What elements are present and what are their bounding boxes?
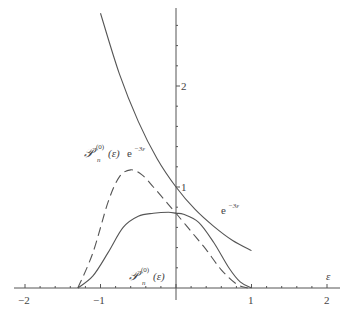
y-ticks xyxy=(176,25,180,267)
svg-text:−3ε: −3ε xyxy=(228,202,239,210)
svg-text:n: n xyxy=(97,156,101,164)
svg-text:(ε): (ε) xyxy=(108,147,120,160)
exp-curve-label: e −3ε xyxy=(221,202,239,216)
y-tick-label-2: 2 xyxy=(181,80,187,92)
x-tick-label-minus1: −1 xyxy=(93,294,105,306)
x-tick-label-minus2: −2 xyxy=(18,294,30,306)
x-tick-label-2: 2 xyxy=(324,294,330,306)
x-tick-label-1: 1 xyxy=(248,294,254,306)
svg-text:(ε): (ε) xyxy=(153,270,165,283)
product-curve-label: 𝒫 (0) n (ε) e −3ε xyxy=(84,143,145,164)
x-axis-label: ε xyxy=(326,270,331,282)
y-tick-label-1: 1 xyxy=(181,181,187,193)
svg-text:(0): (0) xyxy=(96,143,105,151)
svg-text:−3ε: −3ε xyxy=(134,145,145,153)
x-ticks xyxy=(25,284,327,288)
plot-canvas: −2 −1 1 2 1 2 ε e −3ε 𝒫 (0) n (ε) e −3ε … xyxy=(0,0,352,321)
distribution-curve xyxy=(78,212,252,288)
svg-text:n: n xyxy=(142,279,146,287)
svg-text:(0): (0) xyxy=(141,266,150,274)
svg-text:e: e xyxy=(127,147,132,159)
distribution-curve-label: 𝒫 (0) n (ε) xyxy=(129,266,165,287)
svg-text:e: e xyxy=(221,204,226,216)
